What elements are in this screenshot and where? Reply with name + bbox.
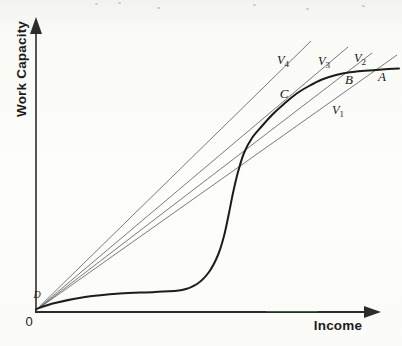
ray-line-v4	[35, 41, 311, 311]
scan-speck	[95, 3, 98, 5]
x-axis-arrow-icon	[364, 306, 381, 318]
scan-speck	[157, 7, 160, 9]
ray-line-v2	[35, 53, 372, 311]
y-axis-arrow-icon	[30, 17, 42, 34]
scan-speck	[118, 2, 121, 4]
ray-label-v3-sub: 3	[326, 60, 331, 70]
x-axis-title: Income	[314, 318, 362, 333]
ray-line-v3	[35, 47, 348, 311]
ray-label-v3: V3	[318, 55, 330, 68]
work-capacity-curve	[36, 69, 399, 310]
ray-label-v2-base: V	[354, 51, 362, 65]
scan-speck	[362, 5, 365, 7]
ray-label-v1: V1	[332, 104, 344, 117]
figure: Work Capacity Income 0 V4 V3 V2 V1 A B C…	[0, 0, 402, 346]
scan-speck	[306, 8, 309, 10]
ray-label-v1-base: V	[332, 103, 340, 117]
ray-line-v1	[35, 55, 397, 311]
ray-label-v3-base: V	[318, 54, 326, 68]
point-label-b: B	[345, 73, 353, 86]
ray-label-v1-sub: 1	[340, 109, 345, 119]
scan-speck	[253, 4, 256, 6]
ray-label-v4-sub: 4	[285, 59, 290, 69]
y-axis-title: Work Capacity	[14, 21, 29, 117]
point-label-c: C	[280, 87, 289, 100]
ray-label-v4-base: V	[277, 53, 285, 67]
origin-label: 0	[25, 314, 32, 329]
ray-label-v4: V4	[277, 54, 289, 67]
ray-label-v2-sub: 2	[362, 57, 367, 67]
point-label-d: D	[33, 290, 40, 300]
point-label-a: A	[378, 70, 386, 83]
ray-label-v2: V2	[354, 52, 366, 65]
chart-canvas	[0, 0, 402, 346]
